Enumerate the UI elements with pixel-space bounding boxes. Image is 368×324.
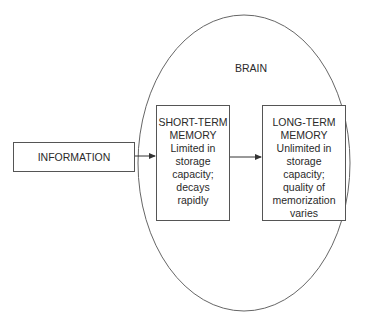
ltm-line-3: Unlimited in: [277, 142, 332, 155]
ltm-line-6: quality of: [283, 181, 325, 194]
ltm-line-7: memorization: [272, 194, 335, 207]
stm-line-4: storage: [175, 155, 210, 168]
information-label: INFORMATION: [38, 151, 111, 164]
ltm-line-5: capacity;: [283, 168, 324, 181]
short-term-memory-box: SHORT-TERM MEMORY Limited in storage cap…: [156, 105, 230, 221]
ltm-line-4: storage: [286, 155, 321, 168]
stm-line-5: capacity;: [172, 168, 213, 181]
stm-line-1: SHORT-TERM: [158, 116, 227, 129]
information-box: INFORMATION: [13, 142, 135, 172]
ltm-line-1: LONG-TERM: [273, 116, 336, 129]
stm-line-6: decays: [176, 181, 209, 194]
ltm-line-2: MEMORY: [280, 129, 327, 142]
long-term-memory-box: LONG-TERM MEMORY Unlimited in storage ca…: [262, 105, 346, 221]
ltm-line-8: varies: [290, 207, 318, 220]
stm-line-7: rapidly: [178, 194, 209, 207]
stm-line-2: MEMORY: [169, 129, 216, 142]
brain-label: BRAIN: [235, 62, 267, 74]
stm-line-3: Limited in: [171, 142, 216, 155]
